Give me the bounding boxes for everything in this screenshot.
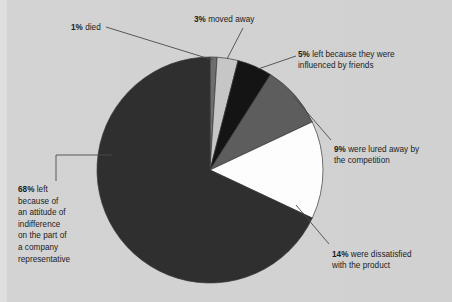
callout-label-moved-away: 3% moved away <box>194 14 254 25</box>
callout-pct-indifference: 68% <box>18 185 34 194</box>
callout-text-moved-away: moved away <box>206 15 254 24</box>
leader-line-died <box>106 27 213 60</box>
callout-pct-influenced-by-friends: 5% <box>298 50 310 59</box>
leader-line-moved-away <box>227 28 243 59</box>
callout-label-indifference: 68% left because of an attitude of indif… <box>18 184 116 265</box>
callout-pct-dissatisfied: 14% <box>332 250 348 259</box>
callout-text-influenced-by-friends: left because they were influenced by fri… <box>298 50 395 70</box>
callout-text-died: died <box>83 23 101 32</box>
callout-label-died: 1% died <box>71 22 101 33</box>
leader-line-friends <box>258 56 296 69</box>
callout-label-influenced-by-friends: 5% left because they were influenced by … <box>298 49 448 72</box>
callout-text-indifference: left because of an attitude of indiffere… <box>18 185 70 264</box>
chart-page: 1% died 3% moved away 5% left because th… <box>0 0 452 302</box>
callout-label-lured-away: 9% were lured away by the competition <box>334 144 452 167</box>
callout-pct-lured-away: 9% <box>334 145 346 154</box>
callout-label-dissatisfied: 14% were dissatisfied with the product <box>332 249 452 272</box>
callout-pct-died: 1% <box>71 23 83 32</box>
callout-pct-moved-away: 3% <box>194 15 206 24</box>
callout-text-lured-away: were lured away by the competition <box>334 145 419 165</box>
